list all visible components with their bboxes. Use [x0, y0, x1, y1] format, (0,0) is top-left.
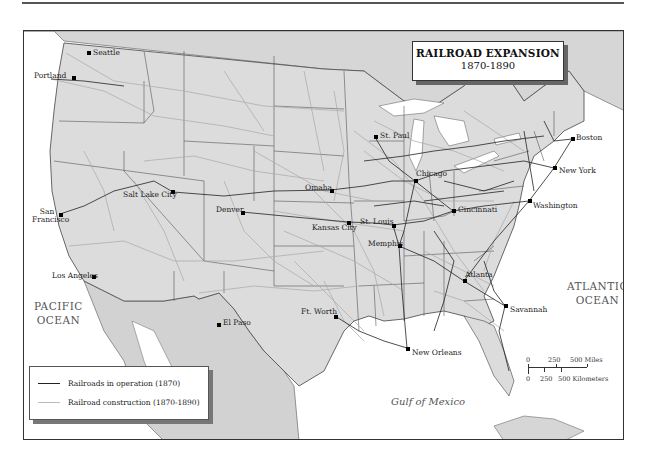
pacific-ocean-label: PACIFIC OCEAN — [34, 299, 83, 327]
scale-km-250: 250 — [540, 375, 552, 383]
city-label-el-paso: El Paso — [223, 319, 251, 327]
city-label-st-paul: St. Paul — [380, 132, 409, 140]
scale-tick — [544, 367, 545, 372]
city-marker-st-paul — [374, 135, 378, 139]
legend-label-construction: Railroad construction (1870-1890) — [68, 398, 200, 407]
dark-line-swatch-icon — [38, 383, 60, 384]
city-label-cincinnati: Cincinnati — [458, 206, 497, 214]
city-label-chicago: Chicago — [416, 170, 447, 178]
city-label-st-louis: St. Louis — [360, 218, 394, 226]
city-label-kansas-city: Kansas City — [312, 224, 357, 232]
city-label-ft-worth: Ft. Worth — [301, 308, 337, 316]
scale-tick — [528, 364, 529, 374]
atlantic-ocean-label: ATLANTIC OCEAN — [567, 279, 624, 307]
scale-bar: 0 250 500 Miles 0 250 500 Kilometers — [526, 356, 616, 396]
top-rule — [22, 2, 624, 4]
legend-label-1870: Railroads in operation (1870) — [68, 379, 180, 388]
city-label-boston: Boston — [576, 134, 602, 142]
city-label-portland: Portland — [34, 72, 66, 80]
scale-line — [528, 367, 587, 368]
legend: Railroads in operation (1870) Railroad c… — [29, 366, 209, 420]
city-marker-portland — [72, 76, 76, 80]
city-marker-boston — [571, 137, 575, 141]
city-marker-new-orleans — [406, 347, 410, 351]
atlantic-line1: ATLANTIC — [567, 279, 624, 293]
city-marker-new-york — [553, 166, 557, 170]
city-label-memphis: Memphis — [368, 240, 403, 248]
florida — [464, 316, 514, 396]
city-marker-washington — [528, 199, 532, 203]
city-marker-cincinnati — [452, 209, 456, 213]
scale-miles-500: 500 Miles — [570, 356, 602, 364]
legend-item-construction: Railroad construction (1870-1890) — [38, 398, 200, 407]
map-frame: RAILROAD EXPANSION 1870-1890 PACIFIC OCE… — [23, 30, 624, 440]
city-marker-el-paso — [217, 323, 221, 327]
city-marker-seattle — [87, 51, 91, 55]
map-title-box: RAILROAD EXPANSION 1870-1890 — [412, 41, 564, 81]
pacific-line2: OCEAN — [34, 313, 83, 327]
city-label-los-angeles: Los Angeles — [52, 272, 98, 280]
scale-tick — [587, 364, 588, 367]
city-label-washington: Washington — [533, 202, 578, 210]
city-label-omaha: Omaha — [305, 184, 332, 192]
gulf-of-mexico-label: Gulf of Mexico — [391, 396, 465, 407]
city-label-savannah: Savannah — [510, 306, 547, 314]
map-date-range: 1870-1890 — [413, 60, 563, 71]
map-title: RAILROAD EXPANSION — [413, 47, 563, 59]
scale-tick — [561, 367, 562, 372]
city-label-salt-lake-city: Salt Lake City — [123, 191, 177, 199]
city-label-san-francisco: San Francisco — [32, 208, 62, 224]
city-label-new-orleans: New Orleans — [412, 349, 462, 357]
city-marker-atlanta — [463, 279, 467, 283]
cuba — [494, 416, 584, 440]
light-line-swatch-icon — [38, 402, 60, 403]
city-marker-chicago — [414, 179, 418, 183]
pacific-line1: PACIFIC — [34, 299, 83, 313]
scale-miles-250: 250 — [548, 356, 560, 364]
legend-item-1870: Railroads in operation (1870) — [38, 379, 180, 388]
scale-miles-0: 0 — [526, 356, 530, 364]
scale-km-500: 500 Kilometers — [558, 375, 608, 383]
city-label-denver: Denver — [216, 206, 244, 214]
scale-tick — [556, 364, 557, 367]
scale-km-0: 0 — [526, 375, 530, 383]
city-marker-savannah — [504, 304, 508, 308]
atlantic-line2: OCEAN — [567, 293, 624, 307]
city-label-new-york: New York — [559, 167, 596, 175]
city-label-atlanta: Atlanta — [465, 271, 492, 279]
city-label-seattle: Seattle — [93, 49, 120, 57]
